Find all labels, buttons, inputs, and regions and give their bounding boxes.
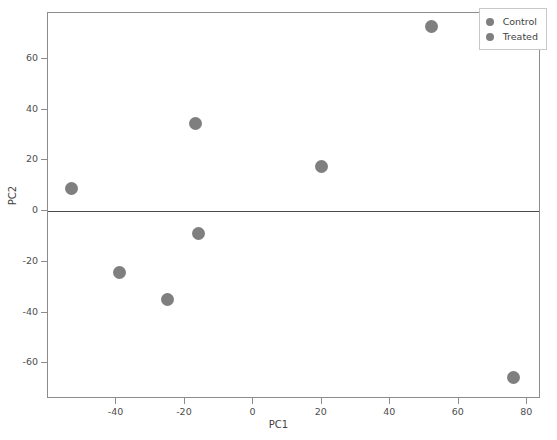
data-point <box>192 227 205 240</box>
x-axis-tick-label: -20 <box>176 406 192 417</box>
legend: ControlTreated <box>479 8 547 50</box>
x-axis-label: PC1 <box>0 419 557 430</box>
x-axis-tick-label: 60 <box>452 406 464 417</box>
x-axis-tick-label: -40 <box>108 406 124 417</box>
x-axis-tick <box>389 398 390 404</box>
data-point <box>315 160 328 173</box>
x-axis-tick <box>526 398 527 404</box>
x-axis-tick <box>184 398 185 404</box>
scatter-plot-figure: PC2 6040200-20-40-60 -40-20020406080 PC1… <box>0 0 557 440</box>
y-axis-tick-label: 20 <box>8 153 38 164</box>
legend-item-label: Control <box>503 16 537 27</box>
x-axis-tick <box>321 398 322 404</box>
y-axis-tick-label: -40 <box>8 306 38 317</box>
x-axis-tick-label: 80 <box>520 406 532 417</box>
x-axis-tick <box>115 398 116 404</box>
y-axis-tick-label: -20 <box>8 255 38 266</box>
legend-marker-icon <box>486 18 494 26</box>
legend-item[interactable]: Treated <box>486 29 538 44</box>
legend-marker-icon <box>486 33 494 41</box>
legend-item[interactable]: Control <box>486 14 538 29</box>
data-point <box>65 182 78 195</box>
zero-reference-line <box>48 211 539 212</box>
x-axis-tick-label: 0 <box>249 406 255 417</box>
data-point <box>507 371 520 384</box>
y-axis-tick-label: 0 <box>8 204 38 215</box>
data-point <box>113 266 126 279</box>
legend-item-label: Treated <box>503 31 538 42</box>
y-axis-tick-label: 60 <box>8 52 38 63</box>
y-axis-tick-label: 40 <box>8 103 38 114</box>
x-axis-tick <box>252 398 253 404</box>
data-point <box>161 293 174 306</box>
data-point <box>189 117 202 130</box>
data-point <box>425 20 438 33</box>
y-axis-tick-label: -60 <box>8 356 38 367</box>
x-axis-tick-label: 40 <box>383 406 395 417</box>
x-axis-tick <box>458 398 459 404</box>
plot-area <box>47 12 540 398</box>
x-axis-tick-label: 20 <box>315 406 327 417</box>
